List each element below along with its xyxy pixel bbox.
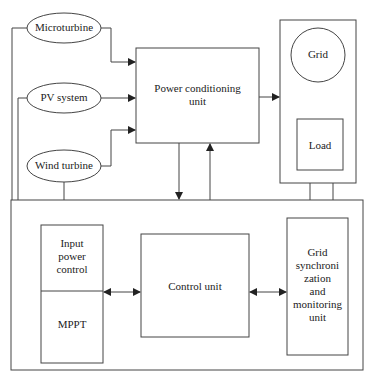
- control-unit-label: Control unit: [141, 280, 249, 293]
- input-power-control-label: Input power control: [41, 237, 103, 276]
- input-line1: Input: [41, 237, 103, 250]
- sync-line6: unit: [287, 311, 348, 324]
- pv-system-label: PV system: [27, 91, 101, 104]
- grid-load-panel: [280, 20, 356, 183]
- microturbine-label: Microturbine: [27, 21, 101, 34]
- grid-sync-label: Grid synchroni zation and monitoring uni…: [287, 246, 348, 324]
- sync-line1: Grid: [287, 246, 348, 259]
- input-line3: control: [41, 263, 103, 276]
- sync-line3: zation: [287, 272, 348, 285]
- load-label: Load: [297, 139, 343, 152]
- wind-turbine-label: Wind turbine: [27, 159, 101, 172]
- pcu-label: Power conditioning unit: [136, 82, 259, 108]
- pcu-label-line1: Power conditioning: [136, 82, 259, 95]
- input-line2: power: [41, 250, 103, 263]
- mppt-label: MPPT: [41, 318, 103, 331]
- pcu-label-line2: unit: [136, 95, 259, 108]
- sync-line5: monitoring: [287, 298, 348, 311]
- sync-line2: synchroni: [287, 259, 348, 272]
- sync-line4: and: [287, 285, 348, 298]
- grid-label: Grid: [291, 48, 345, 61]
